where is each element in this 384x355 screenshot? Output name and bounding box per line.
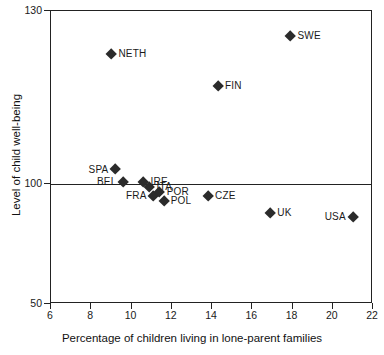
data-point-label: NETH	[118, 49, 146, 59]
x-axis-tick-label: 6	[47, 310, 53, 321]
x-axis-tick-label: 8	[87, 310, 93, 321]
diamond-marker-icon	[212, 80, 224, 92]
scatter-chart-figure: 13010050 6810121416182022 NETHSWEFINSPAB…	[0, 0, 384, 355]
diamond-marker-icon	[264, 207, 276, 219]
x-axis-tick-label: 18	[286, 310, 298, 321]
x-axis-tick-label: 14	[205, 310, 217, 321]
data-point-label: FIN	[225, 81, 242, 91]
x-axis-tick-label: 16	[245, 310, 257, 321]
x-axis-tick-label: 20	[326, 310, 338, 321]
data-point-label: USA	[325, 212, 346, 222]
x-axis-tick-label: 12	[165, 310, 177, 321]
y-axis-tick-label: 100	[24, 178, 42, 189]
data-point-label: CZE	[215, 191, 236, 201]
diamond-marker-icon	[105, 48, 117, 60]
diamond-marker-icon	[202, 191, 214, 203]
x-axis-tick-label: 22	[366, 310, 378, 321]
diamond-marker-icon	[109, 164, 121, 176]
data-point-label: SPA	[89, 165, 109, 175]
y-axis-tick-label: 130	[24, 5, 42, 16]
y-axis-tick-label: 50	[30, 298, 42, 309]
diamond-marker-icon	[347, 211, 359, 223]
data-point-label: SWE	[297, 31, 320, 41]
diamond-marker-icon	[285, 30, 297, 42]
plot-area: NETHSWEFINSPABELIREITAPORFRAPOLCZEUKUSA	[50, 10, 372, 303]
data-point-label: UK	[277, 208, 291, 218]
data-point-label: POL	[171, 196, 192, 206]
x-axis-title: Percentage of children living in lone-pa…	[0, 331, 384, 345]
data-point-label: FRA	[126, 191, 147, 201]
x-axis-tick-label: 10	[125, 310, 137, 321]
data-point-label: BEL	[97, 177, 117, 187]
diamond-marker-icon	[118, 176, 130, 188]
y-axis-title: Level of child well-being	[9, 55, 23, 255]
